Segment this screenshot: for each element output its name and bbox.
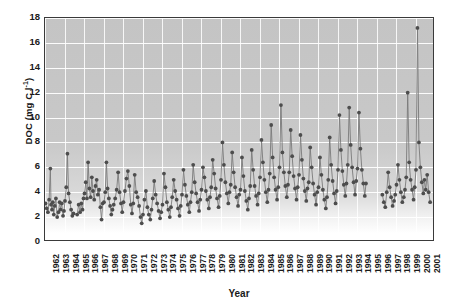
data-point — [393, 193, 397, 197]
data-point — [200, 188, 204, 192]
data-point — [310, 165, 314, 169]
data-point — [311, 182, 315, 186]
data-point — [282, 170, 286, 174]
data-point — [207, 207, 211, 211]
data-point — [107, 197, 111, 201]
data-point — [172, 178, 176, 182]
data-point — [328, 136, 332, 140]
data-point — [269, 123, 273, 127]
data-point — [281, 151, 285, 155]
x-axis-tick: 1987 — [296, 254, 305, 273]
x-axis-tick: 1966 — [91, 254, 100, 273]
data-point — [345, 182, 349, 186]
data-point — [158, 216, 162, 220]
data-point — [211, 158, 215, 162]
y-axis-tick: 10 — [18, 112, 40, 122]
data-point — [168, 215, 172, 219]
data-point — [113, 197, 117, 201]
data-point — [363, 194, 367, 198]
data-point — [334, 202, 338, 206]
data-point — [250, 148, 254, 152]
data-point — [257, 192, 261, 196]
data-point — [230, 151, 234, 155]
x-axis-tick: 1999 — [413, 254, 422, 273]
data-point — [122, 200, 126, 204]
data-point — [201, 165, 205, 169]
data-point — [286, 183, 290, 187]
data-point — [95, 178, 99, 182]
data-point — [51, 200, 55, 204]
data-point — [123, 189, 127, 193]
data-point — [115, 188, 119, 192]
data-point — [180, 193, 184, 197]
data-point — [287, 170, 291, 174]
data-point — [212, 172, 216, 176]
data-point — [182, 168, 186, 172]
data-point — [382, 200, 386, 204]
data-point — [237, 193, 241, 197]
x-axis-tick: 1976 — [189, 254, 198, 273]
x-axis-tick: 1978 — [208, 254, 217, 273]
data-point — [52, 213, 56, 217]
data-point — [315, 190, 319, 194]
data-point — [404, 175, 408, 179]
x-axis-tick: 1992 — [345, 254, 354, 273]
data-point — [258, 175, 262, 179]
data-point — [219, 178, 223, 182]
x-axis-tick: 1981 — [238, 254, 247, 273]
x-axis-tick: 1974 — [169, 254, 178, 273]
x-axis-tick: 1993 — [355, 254, 364, 273]
data-point — [61, 214, 65, 218]
data-point — [55, 215, 59, 219]
data-point — [297, 173, 301, 177]
data-point — [275, 198, 279, 202]
data-point — [304, 199, 308, 203]
data-point — [357, 111, 361, 115]
data-point — [96, 193, 100, 197]
y-axis-tick: 4 — [18, 186, 40, 196]
x-axis-tick: 1968 — [111, 254, 120, 273]
data-series-doc — [45, 18, 433, 240]
data-point — [83, 192, 87, 196]
data-point — [402, 195, 406, 199]
y-axis-tick-labels: 024681012141618 — [14, 0, 40, 305]
data-point — [343, 194, 347, 198]
data-point — [48, 167, 52, 171]
data-point — [314, 203, 318, 207]
data-point — [82, 197, 86, 201]
data-point — [152, 179, 156, 183]
x-axis-tick: 1990 — [325, 254, 334, 273]
x-axis-tick: 1984 — [267, 254, 276, 273]
data-point — [325, 195, 329, 199]
data-point — [268, 172, 272, 176]
data-point — [150, 208, 154, 212]
x-axis-title: Year — [44, 288, 434, 299]
data-point — [187, 210, 191, 214]
data-point — [279, 103, 283, 107]
x-axis-tick: 1982 — [247, 254, 256, 273]
data-point — [389, 195, 393, 199]
data-point — [189, 200, 193, 204]
data-point — [64, 185, 68, 189]
data-point — [91, 189, 95, 193]
data-point — [424, 188, 428, 192]
data-point — [151, 197, 155, 201]
x-axis-tick: 1995 — [374, 254, 383, 273]
data-point — [321, 188, 325, 192]
data-point — [242, 174, 246, 178]
data-point — [178, 214, 182, 218]
data-point — [87, 187, 91, 191]
x-axis-tick: 1967 — [101, 254, 110, 273]
x-axis-tick: 1973 — [160, 254, 169, 273]
data-point — [179, 204, 183, 208]
data-point — [336, 168, 340, 172]
data-point — [62, 209, 66, 213]
data-point — [60, 202, 64, 206]
data-point — [86, 160, 90, 164]
data-point — [320, 173, 324, 177]
data-point — [289, 128, 293, 132]
x-axis-tick: 1972 — [150, 254, 159, 273]
data-point — [131, 202, 135, 206]
data-point — [194, 192, 198, 196]
x-axis-tick: 1962 — [52, 254, 61, 273]
